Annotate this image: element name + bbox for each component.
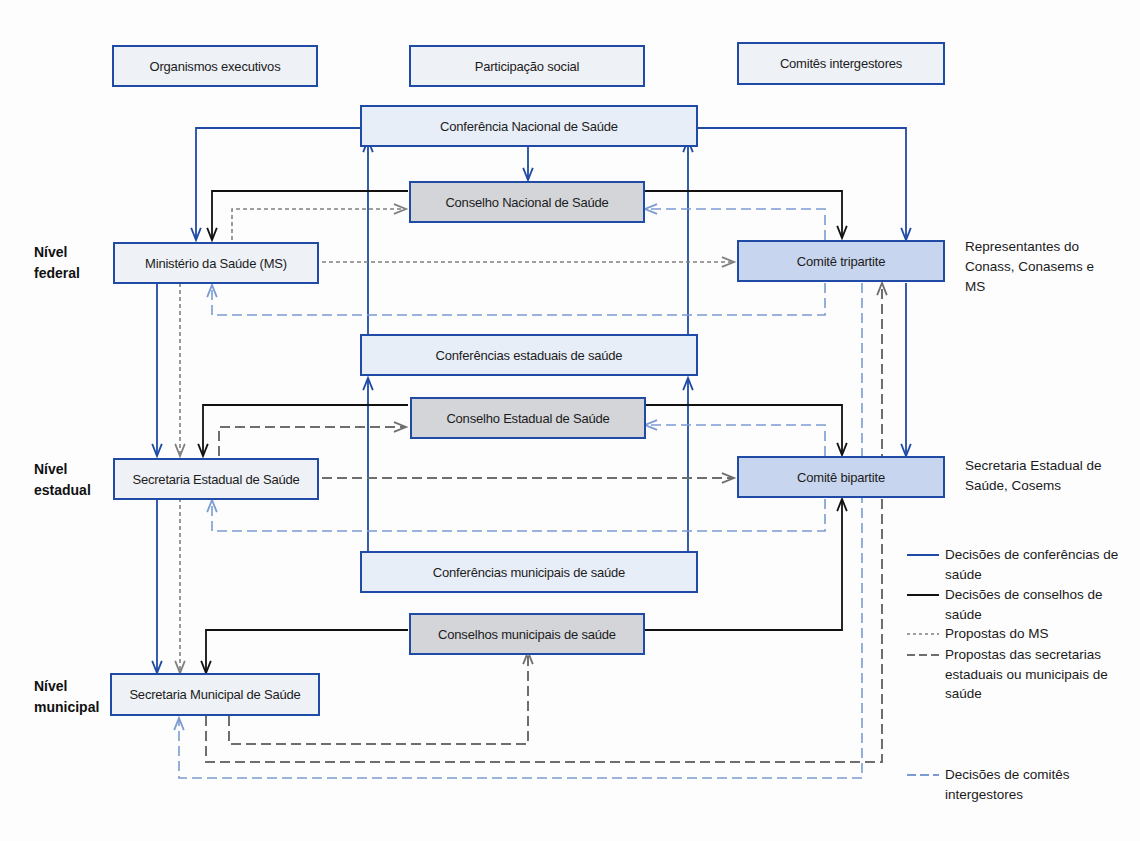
connector-council bbox=[642, 191, 842, 238]
node-secretaria-estadual: Secretaria Estadual de Saúde bbox=[113, 458, 319, 500]
legend-swatch-dotted-gray-icon bbox=[905, 624, 939, 644]
connector-conference bbox=[696, 128, 906, 240]
legend-label: Decisões de conferências de saúde bbox=[945, 545, 1140, 584]
connector-secretariat-proposal bbox=[219, 427, 406, 456]
connector-council bbox=[203, 405, 408, 456]
node-comite-tripartite: Comitê tripartite bbox=[737, 240, 945, 282]
legend-label: Propostas das secretarias estaduais ou m… bbox=[945, 645, 1140, 704]
level-label-federal: Nível federal bbox=[34, 242, 104, 284]
legend-item-council: Decisões de conselhos de saúde bbox=[905, 585, 1140, 624]
level-label-state: Nível estadual bbox=[34, 459, 104, 501]
node-conferencias-municipais: Conferências municipais de saúde bbox=[360, 551, 698, 593]
legend-label: Decisões de comitês intergestores bbox=[945, 765, 1140, 804]
connector-conference bbox=[196, 128, 364, 240]
legend-label: Propostas do MS bbox=[945, 624, 1049, 644]
legend-swatch-dashed-lightblue-icon bbox=[905, 765, 939, 785]
legend-swatch-solid-blue-icon bbox=[905, 545, 939, 565]
legend-item-committee: Decisões de comitês intergestores bbox=[905, 765, 1140, 804]
node-conselho-estadual: Conselho Estadual de Saúde bbox=[410, 397, 646, 439]
connector-council bbox=[212, 191, 408, 240]
connector-council bbox=[206, 630, 408, 673]
connector-committee bbox=[645, 209, 825, 240]
connector-council bbox=[642, 405, 842, 455]
header-intermanager-committees: Comitês intergestores bbox=[737, 42, 945, 85]
connector-committee bbox=[212, 499, 825, 531]
connector-committee bbox=[212, 283, 825, 315]
legend-swatch-dashed-gray-icon bbox=[905, 645, 939, 665]
connector-ms-proposal bbox=[232, 209, 406, 240]
connector-committee bbox=[645, 425, 825, 456]
note-tripartite-members: Representantes do Conass, Conasems e MS bbox=[965, 237, 1095, 297]
header-executive-bodies: Organismos executivos bbox=[112, 45, 318, 87]
node-secretaria-municipal: Secretaria Municipal de Saúde bbox=[110, 673, 320, 716]
node-conselhos-municipais: Conselhos municipais de saúde bbox=[409, 613, 645, 655]
legend-item-conference: Decisões de conferências de saúde bbox=[905, 545, 1140, 584]
node-conselho-nacional: Conselho Nacional de Saúde bbox=[409, 181, 645, 223]
note-bipartite-members: Secretaria Estadual de Saúde, Cosems bbox=[965, 456, 1115, 496]
level-label-municipal: Nível municipal bbox=[34, 676, 114, 718]
node-ministerio-da-saude: Ministério da Saúde (MS) bbox=[113, 242, 319, 284]
header-social-participation: Participação social bbox=[409, 45, 645, 87]
arrowhead-icon bbox=[394, 422, 406, 432]
node-conferencias-estaduais: Conferências estaduais de saúde bbox=[360, 334, 698, 376]
legend-item-secretariat-proposal: Propostas das secretarias estaduais ou m… bbox=[905, 645, 1140, 704]
legend-swatch-solid-black-icon bbox=[905, 585, 939, 605]
legend-item-ms-proposal: Propostas do MS bbox=[905, 624, 1140, 644]
legend-label: Decisões de conselhos de saúde bbox=[945, 585, 1140, 624]
node-comite-bipartite: Comitê bipartite bbox=[737, 456, 945, 498]
node-conferencia-nacional: Conferência Nacional de Saúde bbox=[360, 105, 698, 147]
